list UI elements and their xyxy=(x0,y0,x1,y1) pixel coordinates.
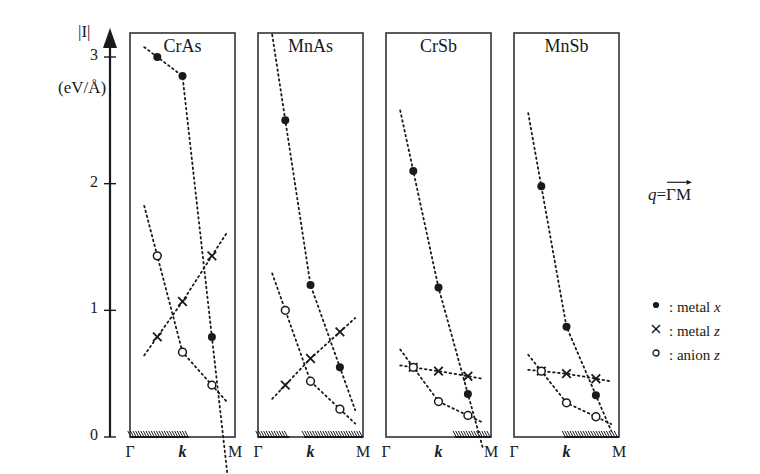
legend-label-metal-x-symbol: x xyxy=(714,299,721,315)
data-point-MnSb-metal-x-1 xyxy=(563,323,571,331)
data-point-CrAs-anion-z-2 xyxy=(208,381,216,389)
x-tick-label-MnAs-1: k xyxy=(291,443,331,461)
panel-frame-MnAs xyxy=(258,33,363,437)
data-point-MnSb-metal-x-0 xyxy=(537,182,545,190)
legend-label-metal-z-prefix: : metal xyxy=(669,323,714,339)
x-tick-label-CrAs-1: k xyxy=(163,443,203,461)
axis-hatch-MnAs xyxy=(256,431,290,437)
legend-label-metal-z-symbol: z xyxy=(714,323,720,339)
legend-label-anion-z-symbol: z xyxy=(714,347,720,363)
panel-title-MnAs: MnAs xyxy=(258,36,363,57)
legend-q-path: ΓM xyxy=(666,185,691,204)
legend-label-anion-z-prefix: : anion xyxy=(669,347,714,363)
legend-row-metal-x: : metal x xyxy=(648,295,721,319)
data-point-CrSb-anion-z-1 xyxy=(435,398,443,406)
panel-title-CrSb: CrSb xyxy=(386,36,491,57)
data-point-MnSb-metal-x-2 xyxy=(592,391,600,399)
axis-hatch-CrSb xyxy=(453,431,491,437)
data-point-CrAs-metal-z-0 xyxy=(153,333,162,342)
data-point-MnSb-anion-z-0 xyxy=(537,367,545,375)
data-point-MnAs-metal-x-1 xyxy=(307,281,315,289)
data-point-MnAs-metal-x-2 xyxy=(336,363,344,371)
x-tick-label-MnSb-1: k xyxy=(547,443,587,461)
legend-row-metal-z: : metal z xyxy=(648,319,721,343)
data-point-CrSb-metal-x-2 xyxy=(464,390,472,398)
trend-line-CrSb-anion-z xyxy=(400,350,483,423)
legend-label-anion-z: : anion z xyxy=(669,347,720,364)
legend-label-metal-x: : metal x xyxy=(669,299,721,316)
legend-row-anion-z: : anion z xyxy=(648,343,721,367)
axis-hatch-MnSb xyxy=(562,431,619,437)
legend-label-metal-x-prefix: : metal xyxy=(669,299,714,315)
x-tick-label-MnSb-0: Γ xyxy=(494,443,534,461)
open-circle-icon xyxy=(648,346,664,364)
trend-line-MnSb-metal-x xyxy=(528,113,611,431)
legend-q-equals: = xyxy=(657,185,667,204)
x-tick-label-CrSb-1: k xyxy=(419,443,459,461)
x-tick-label-CrSb-0: Γ xyxy=(366,443,406,461)
panel-title-CrAs: CrAs xyxy=(130,36,235,57)
data-point-CrSb-anion-z-0 xyxy=(409,363,417,371)
data-point-MnAs-metal-z-0 xyxy=(281,381,290,390)
data-point-CrAs-anion-z-1 xyxy=(179,348,187,356)
data-point-CrSb-anion-z-2 xyxy=(464,412,472,420)
panel-frame-CrSb xyxy=(386,33,491,437)
y-tick-label-1: 1 xyxy=(76,299,98,317)
legend-label-metal-z: : metal z xyxy=(669,323,720,340)
y-tick-label-3: 3 xyxy=(76,46,98,64)
legend-q-path-wrap: ΓM xyxy=(666,185,691,205)
legend-q-definition: q=ΓM xyxy=(648,185,691,205)
cross-icon xyxy=(648,322,664,340)
data-point-MnAs-metal-z-1 xyxy=(306,354,315,363)
right-arrow-icon xyxy=(667,178,692,186)
axis-hatch-MnAs xyxy=(302,431,363,437)
axis-hatch-CrAs xyxy=(128,431,189,437)
data-point-CrAs-metal-x-1 xyxy=(179,72,187,80)
data-point-MnAs-anion-z-0 xyxy=(281,306,289,314)
figure-root: |I| (eV/Å) q=ΓM : metal x : metal z : an… xyxy=(0,0,760,474)
trend-line-MnAs-metal-x xyxy=(272,35,355,410)
data-point-CrSb-metal-x-0 xyxy=(409,167,417,175)
y-tick-label-0: 0 xyxy=(76,426,98,444)
data-point-CrAs-metal-z-1 xyxy=(178,297,187,306)
data-point-MnAs-anion-z-2 xyxy=(336,405,344,413)
legend-q-symbol: q xyxy=(648,185,657,204)
data-point-MnAs-metal-z-2 xyxy=(336,328,345,337)
panel-frame-MnSb xyxy=(514,33,619,437)
panel-title-MnSb: MnSb xyxy=(514,36,619,57)
data-point-CrAs-metal-x-2 xyxy=(208,333,216,341)
x-tick-label-MnAs-0: Γ xyxy=(238,443,278,461)
panel-frame-CrAs xyxy=(130,33,235,437)
y-axis-arrow-icon xyxy=(103,28,117,48)
data-point-CrAs-metal-z-2 xyxy=(208,252,217,261)
y-tick-label-2: 2 xyxy=(76,173,98,191)
data-point-CrAs-anion-z-0 xyxy=(153,252,161,260)
x-tick-label-CrAs-0: Γ xyxy=(110,443,150,461)
data-point-MnSb-anion-z-1 xyxy=(563,399,571,407)
data-point-MnAs-anion-z-1 xyxy=(307,377,315,385)
x-tick-label-MnSb-2: M xyxy=(599,443,639,461)
data-point-MnAs-metal-x-0 xyxy=(281,116,289,124)
data-point-CrSb-metal-x-1 xyxy=(435,284,443,292)
plot-canvas xyxy=(0,0,760,474)
filled-circle-icon xyxy=(648,298,664,316)
legend-entries: : metal x : metal z : anion z xyxy=(648,295,721,367)
data-point-MnSb-anion-z-2 xyxy=(592,413,600,421)
